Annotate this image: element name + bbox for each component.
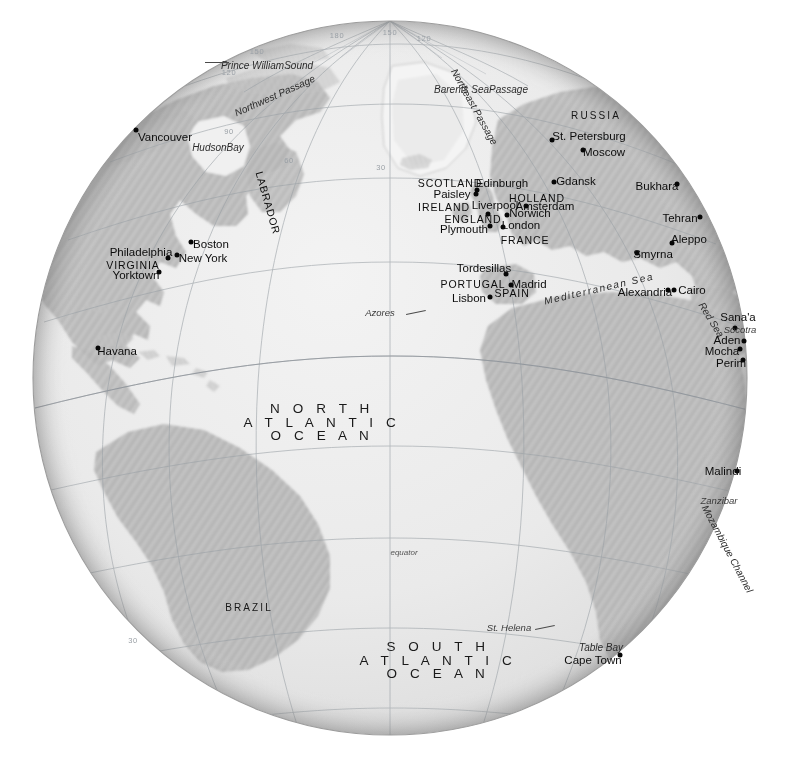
limb-shading [33,21,747,735]
madagascar [732,498,760,552]
globe-graphic [0,0,785,776]
map-canvas[interactable]: N O R T HA T L A N T I CO C E A NS O U T… [0,0,785,776]
